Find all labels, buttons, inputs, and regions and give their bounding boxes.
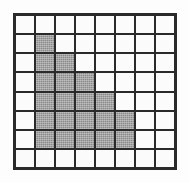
grid-cell-empty <box>156 16 174 33</box>
grid-cell-empty <box>136 93 154 110</box>
grid-cell-empty <box>136 73 154 90</box>
grid-cell-empty <box>76 35 94 52</box>
grid-cell-filled <box>116 131 134 148</box>
grid-cell-empty <box>96 54 114 71</box>
grid-cell-filled <box>56 112 74 129</box>
grid-cell-empty <box>56 35 74 52</box>
grid-cell-empty <box>16 131 34 148</box>
grid-cell-filled <box>56 54 74 71</box>
grid-cell-filled <box>76 112 94 129</box>
grid-cell-filled <box>36 93 54 110</box>
grid-cell-empty <box>16 54 34 71</box>
shaded-grid-figure <box>13 13 177 170</box>
grid-cell-empty <box>56 16 74 33</box>
grid-cell-empty <box>136 35 154 52</box>
grid-cell-empty <box>156 112 174 129</box>
grid-cell-filled <box>56 93 74 110</box>
grid-cell-empty <box>136 54 154 71</box>
grid-cell-empty <box>16 93 34 110</box>
grid-cell-filled <box>36 35 54 52</box>
grid-cell-empty <box>96 35 114 52</box>
grid-cell-filled <box>76 93 94 110</box>
grid-cell-empty <box>16 16 34 33</box>
grid-cell-empty <box>156 131 174 148</box>
grid-cell-empty <box>16 73 34 90</box>
grid-cell-filled <box>96 112 114 129</box>
grid-cell-filled <box>36 112 54 129</box>
grid-cell-empty <box>76 16 94 33</box>
grid-cell-empty <box>156 150 174 167</box>
grid-cell-empty <box>16 35 34 52</box>
grid-cell-empty <box>136 16 154 33</box>
grid-cell-empty <box>16 112 34 129</box>
grid-cell-empty <box>56 150 74 167</box>
grid-cell-filled <box>36 131 54 148</box>
grid-cell-empty <box>136 131 154 148</box>
grid-cell-empty <box>36 150 54 167</box>
grid-cell-filled <box>56 73 74 90</box>
grid-cell-empty <box>76 150 94 167</box>
grid-cell-filled <box>76 73 94 90</box>
grid-cell-filled <box>76 131 94 148</box>
grid-cell-filled <box>36 54 54 71</box>
grid-cell-empty <box>156 93 174 110</box>
grid-cell-filled <box>56 131 74 148</box>
grid-cell-empty <box>116 35 134 52</box>
grid-cell-filled <box>36 73 54 90</box>
grid-cell-empty <box>136 112 154 129</box>
grid-cell-filled <box>96 131 114 148</box>
grid-cell-empty <box>116 54 134 71</box>
grid-cell-empty <box>136 150 154 167</box>
grid-cell-filled <box>96 93 114 110</box>
grid-cell-empty <box>116 150 134 167</box>
grid-cell-empty <box>116 16 134 33</box>
grid-cell-empty <box>156 73 174 90</box>
grid-cell-empty <box>96 150 114 167</box>
grid-cell-empty <box>96 73 114 90</box>
grid-cell-empty <box>116 73 134 90</box>
grid-cell-empty <box>16 150 34 167</box>
grid-cell-empty <box>116 93 134 110</box>
grid-cell-empty <box>156 35 174 52</box>
grid-cell-empty <box>76 54 94 71</box>
grid-cell-empty <box>96 16 114 33</box>
grid-cell-empty <box>36 16 54 33</box>
figure-canvas <box>0 0 189 183</box>
grid-cell-empty <box>156 54 174 71</box>
grid-cell-filled <box>116 112 134 129</box>
